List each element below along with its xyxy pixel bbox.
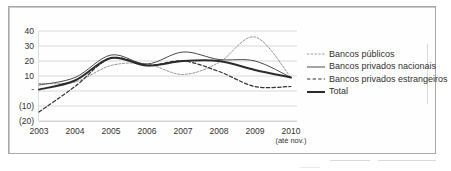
legend-item-label: Bancos privados nacionais [329, 61, 436, 72]
x-tick-label: 2007 [166, 126, 200, 136]
scan-artifact [330, 160, 370, 161]
y-tick-label: (20) [12, 116, 34, 126]
thin-solid-swatch [307, 63, 325, 71]
figure: 40302010-(10)(20) 2003200420052006200720… [0, 0, 451, 171]
thick-solid-swatch [307, 88, 325, 96]
x-tick-label: 2008 [202, 126, 236, 136]
scan-artifact [378, 160, 436, 161]
y-tick-label: - [12, 84, 34, 94]
x-tick-label: 2010 [274, 126, 308, 136]
legend-item-label: Bancos privados estrangeiros [329, 74, 448, 85]
legend-item[interactable]: Bancos privados estrangeiros [307, 73, 448, 86]
x-tick-label: 2004 [58, 126, 92, 136]
legend-item[interactable]: Total [307, 86, 448, 99]
legend-item[interactable]: Bancos privados nacionais [307, 61, 448, 74]
series-line-3 [39, 57, 291, 112]
y-tick-label: 30 [12, 41, 34, 51]
y-tick-label: (10) [12, 101, 34, 111]
fine-dashed-swatch [307, 50, 325, 58]
series-lines [39, 37, 291, 112]
y-tick-label: 10 [12, 71, 34, 81]
x-tick-label: 2005 [94, 126, 128, 136]
legend: Bancos públicosBancos privados nacionais… [307, 48, 448, 98]
x-tick-label: 2009 [238, 126, 272, 136]
legend-item-label: Total [329, 86, 348, 97]
x-axis-sublabel: (até nov.) [268, 136, 314, 145]
x-tick-label: 2003 [22, 126, 56, 136]
y-tick-label: 40 [12, 26, 34, 36]
scan-artifact [300, 167, 320, 168]
legend-item-label: Bancos públicos [329, 49, 395, 60]
y-tick-label: 20 [12, 56, 34, 66]
dashed-swatch [307, 75, 325, 83]
x-tick-label: 2006 [130, 126, 164, 136]
legend-item[interactable]: Bancos públicos [307, 48, 448, 61]
